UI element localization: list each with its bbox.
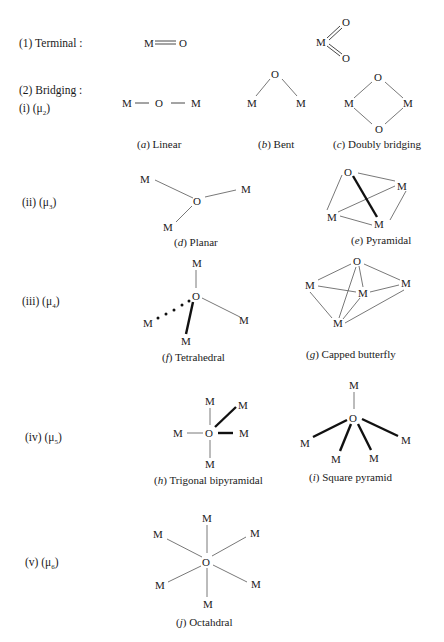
svg-text:M: M: [358, 287, 368, 299]
label-mu5: (iv) (μ5): [25, 431, 62, 446]
svg-text:O: O: [344, 166, 352, 178]
label-mu3: (ii) (μ3): [22, 196, 56, 211]
svg-text:(iv) (μ5): (iv) (μ5): [25, 431, 62, 446]
svg-text:(v) (μ6): (v) (μ6): [25, 556, 59, 571]
svg-text:M: M: [300, 437, 310, 449]
svg-text:M: M: [316, 36, 326, 48]
svg-text:O: O: [192, 290, 200, 302]
caption-g: (g) Capped butterfly: [306, 348, 396, 361]
caption-f: (f) Tetrahedral: [162, 351, 225, 364]
dotted-bond: [157, 300, 191, 320]
svg-text:O: O: [375, 123, 383, 135]
svg-text:M: M: [153, 528, 163, 540]
structure-doubly-bridging: O M M O: [344, 71, 413, 135]
oxo-bonding-modes-diagram: (1) Terminal : (2) Bridging : (i) (μ2) (…: [0, 0, 444, 642]
structure-trigonal-bipyramidal: M M M O M M: [173, 395, 249, 470]
svg-text:(ii) (μ3): (ii) (μ3): [22, 196, 56, 211]
svg-text:M: M: [401, 277, 411, 289]
svg-text:O: O: [353, 255, 361, 267]
svg-text:O: O: [202, 556, 210, 568]
label-mu2: (i) (μ2): [19, 102, 50, 117]
svg-text:M: M: [143, 317, 153, 329]
caption-j: (j) Octahdral: [176, 616, 233, 629]
svg-text:M: M: [140, 173, 150, 185]
svg-text:M: M: [333, 317, 343, 329]
svg-text:M: M: [202, 512, 212, 524]
svg-text:M: M: [144, 37, 154, 49]
caption-c: (c) Doubly bridging: [333, 138, 422, 151]
svg-text:M: M: [344, 97, 354, 109]
svg-text:M: M: [397, 180, 407, 192]
svg-text:M: M: [296, 97, 306, 109]
svg-text:M: M: [192, 257, 202, 269]
svg-text:O: O: [349, 412, 357, 424]
svg-text:(iii) (μ4): (iii) (μ4): [22, 295, 60, 310]
svg-text:M: M: [247, 97, 257, 109]
svg-text:O: O: [205, 427, 213, 439]
label-bridging: (2) Bridging :: [19, 84, 82, 97]
label-mu6: (v) (μ6): [25, 556, 59, 571]
label-terminal: (1) Terminal :: [19, 37, 83, 50]
svg-text:O: O: [342, 52, 350, 64]
structure-capped-butterfly: O M M M M: [305, 255, 411, 329]
svg-text:M: M: [250, 527, 260, 539]
structure-planar: M O M M: [140, 173, 251, 233]
svg-text:M: M: [305, 279, 315, 291]
svg-text:M: M: [239, 427, 249, 439]
caption-e: (e) Pyramidal: [351, 234, 411, 247]
structure-square-pyramid: M O M M M M: [300, 379, 411, 465]
svg-text:(i) (μ2): (i) (μ2): [19, 102, 50, 117]
svg-text:M: M: [239, 314, 249, 326]
caption-d: (d) Planar: [174, 236, 218, 249]
structure-pyramidal: O M M M: [327, 166, 407, 230]
svg-text:M: M: [205, 395, 215, 407]
svg-text:O: O: [271, 68, 279, 80]
svg-text:M: M: [238, 399, 248, 411]
svg-text:M: M: [205, 458, 215, 470]
structure-linear: M O M: [122, 97, 201, 109]
svg-text:M: M: [163, 221, 173, 233]
svg-text:M: M: [374, 218, 384, 230]
caption-a: (a) Linear: [137, 138, 182, 151]
svg-text:M: M: [191, 97, 201, 109]
structure-tetrahedral: M O M M M: [143, 257, 249, 347]
svg-text:M: M: [181, 335, 191, 347]
svg-text:O: O: [155, 97, 163, 109]
svg-text:M: M: [155, 579, 165, 591]
svg-text:O: O: [193, 195, 201, 207]
svg-text:O: O: [179, 37, 187, 49]
caption-i: (i) Square pyramid: [309, 471, 393, 484]
svg-text:M: M: [331, 453, 341, 465]
svg-text:M: M: [403, 97, 413, 109]
label-mu4: (iii) (μ4): [22, 295, 60, 310]
terminal-mo2-dioxo: M O O: [316, 16, 350, 64]
svg-text:M: M: [369, 452, 379, 464]
caption-h: (h) Trigonal bipyramidal: [154, 474, 263, 487]
svg-text:M: M: [122, 97, 132, 109]
terminal-mo-double: M O: [144, 37, 187, 49]
svg-text:M: M: [327, 211, 337, 223]
svg-text:M: M: [401, 434, 411, 446]
caption-b: (b) Bent: [258, 138, 294, 151]
svg-text:M: M: [241, 183, 251, 195]
svg-text:O: O: [374, 71, 382, 83]
svg-text:M: M: [349, 379, 359, 391]
svg-text:M: M: [173, 427, 183, 439]
svg-text:M: M: [203, 598, 213, 610]
svg-text:O: O: [342, 16, 350, 28]
structure-bent: O M M: [247, 68, 306, 109]
svg-text:M: M: [251, 578, 261, 590]
structure-octahedral: M M M O M M M: [153, 512, 261, 610]
